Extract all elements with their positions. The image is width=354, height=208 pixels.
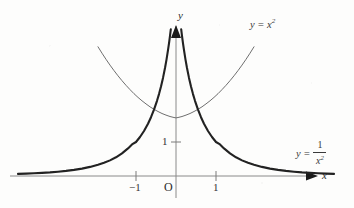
graph-canvas — [0, 0, 354, 208]
y-tick-label-1: 1 — [162, 136, 168, 147]
x-tick-label-1: 1 — [213, 182, 219, 193]
curve-label-reciprocal: y = 1 x2 — [296, 140, 326, 166]
curve-label-reciprocal-lhs: y = — [296, 148, 310, 159]
curve-reciprocal-left — [18, 29, 171, 174]
curve-label-reciprocal-denominator: x2 — [314, 153, 326, 167]
curve-label-reciprocal-denominator-exponent: 2 — [320, 154, 323, 161]
curve-label-reciprocal-numerator: 1 — [315, 140, 324, 152]
x-axis-label: x — [322, 170, 327, 181]
curve-label-reciprocal-fraction: 1 x2 — [313, 140, 326, 166]
graph-figure: y x O −1 1 1 y = x2 y = 1 x2 — [0, 0, 354, 208]
curve-label-parabola-lhs: y = — [250, 19, 264, 30]
curve-label-parabola-exponent: 2 — [272, 17, 276, 25]
x-tick-label--1: −1 — [129, 182, 141, 193]
origin-label: O — [164, 181, 173, 193]
curve-label-parabola: y = x2 — [250, 18, 275, 30]
y-axis-label: y — [178, 10, 183, 21]
y-axis-arrowhead — [171, 25, 181, 38]
